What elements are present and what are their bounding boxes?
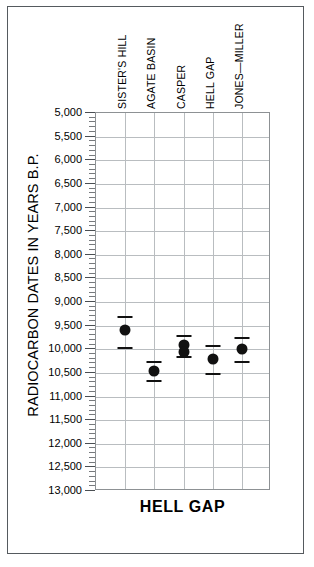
data-point: [120, 325, 131, 336]
tick-major: [85, 277, 95, 278]
y-tick-label: 11,000: [49, 390, 82, 402]
error-bar-cap-lower: [147, 361, 162, 363]
y-tick-label: 8,500: [54, 271, 82, 283]
gridline-vertical: [213, 113, 214, 489]
error-bar-cap-lower: [118, 316, 133, 318]
data-point: [178, 346, 189, 357]
error-bar-cap-upper: [234, 361, 249, 363]
y-tick-label: 9,000: [54, 295, 82, 307]
gridline-horizontal: [96, 302, 269, 303]
y-tick-label: 6,500: [54, 177, 82, 189]
x-axis-label-1: SISTER'S HILL: [116, 34, 128, 109]
gridline-horizontal: [96, 231, 269, 232]
tick-major: [85, 183, 95, 184]
gridline-horizontal: [96, 397, 269, 398]
y-axis-tick-marks: [85, 112, 95, 490]
y-tick-label: 12,000: [48, 437, 82, 449]
tick-major: [85, 207, 95, 208]
tick-major: [85, 348, 95, 349]
y-tick-label: 6,000: [54, 153, 82, 165]
error-bar-cap-upper: [205, 373, 220, 375]
x-axis-label-2: AGATE BASIN: [145, 38, 157, 109]
y-tick-label: 10,500: [48, 366, 82, 378]
y-tick-label: 5,000: [54, 106, 82, 118]
gridline-vertical: [125, 113, 126, 489]
tick-major: [85, 325, 95, 326]
plot-area: [95, 112, 270, 490]
error-bar-cap-lower: [234, 337, 249, 339]
y-tick-label: 9,500: [54, 319, 82, 331]
gridline-horizontal: [96, 373, 269, 374]
gridline-horizontal: [96, 160, 269, 161]
tick-major: [85, 230, 95, 231]
gridline-horizontal: [96, 467, 269, 468]
tick-major: [85, 490, 95, 491]
error-bar-cap-upper: [147, 380, 162, 382]
gridline-horizontal: [96, 444, 269, 445]
chart-title: HELL GAP: [95, 498, 270, 516]
x-axis-label-3: CASPER: [175, 65, 187, 109]
x-axis-label-4: HELL GAP: [204, 56, 216, 109]
gridline-horizontal: [96, 420, 269, 421]
y-tick-label: 5,500: [54, 130, 82, 142]
data-point: [207, 353, 218, 364]
gridline-horizontal: [96, 137, 269, 138]
tick-major: [85, 443, 95, 444]
tick-major: [85, 372, 95, 373]
tick-major: [85, 136, 95, 137]
y-axis-tick-labels: 5,0005,5006,0006,5007,0007,5008,0008,500…: [0, 112, 82, 490]
data-point: [149, 365, 160, 376]
figure-canvas: RADIOCARBON DATES IN YEARS B.P. 5,0005,5…: [0, 0, 314, 567]
error-bar-cap-upper: [118, 347, 133, 349]
gridline-vertical: [154, 113, 155, 489]
gridline-horizontal: [96, 184, 269, 185]
tick-major: [85, 112, 95, 113]
y-tick-label: 11,500: [49, 413, 82, 425]
data-point: [236, 344, 247, 355]
y-tick-label: 12,500: [48, 460, 82, 472]
tick-major: [85, 396, 95, 397]
gridline-horizontal: [96, 208, 269, 209]
error-bar-cap-lower: [176, 335, 191, 337]
y-tick-label: 7,000: [54, 201, 82, 213]
tick-major: [85, 301, 95, 302]
y-tick-label: 10,000: [48, 342, 82, 354]
tick-major: [85, 159, 95, 160]
y-tick-label: 8,000: [54, 248, 82, 260]
tick-major: [85, 419, 95, 420]
tick-major: [85, 466, 95, 467]
y-tick-label: 7,500: [54, 224, 82, 236]
x-axis-category-labels: SISTER'S HILLAGATE BASINCASPERHELL GAPJO…: [95, 0, 270, 112]
tick-major: [85, 254, 95, 255]
gridline-vertical: [242, 113, 243, 489]
error-bar-cap-lower: [205, 345, 220, 347]
gridline-horizontal: [96, 255, 269, 256]
gridline-horizontal: [96, 278, 269, 279]
x-axis-label-5: JONES—MILLER: [233, 23, 245, 109]
y-tick-label: 13,000: [48, 484, 82, 496]
gridline-vertical: [184, 113, 185, 489]
